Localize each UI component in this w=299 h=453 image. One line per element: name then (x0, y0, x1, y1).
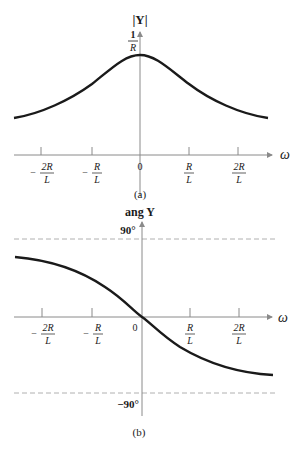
svg-text:−: − (83, 328, 89, 339)
svg-text:R: R (93, 161, 100, 172)
peak-label-num: 1 (131, 29, 136, 40)
svg-text:R: R (186, 322, 193, 333)
svg-text:−: − (82, 167, 88, 178)
svg-text:2R: 2R (41, 161, 52, 172)
svg-text:2R: 2R (42, 322, 53, 333)
tick-labels-a: − 2R L − R L 0 R L 2R L (30, 161, 246, 185)
origin-label-b: 0 (133, 322, 138, 333)
figure: |Y| 1 R ω − 2R L − R L 0 R L 2R L (a) an… (0, 0, 299, 453)
svg-text:L: L (235, 174, 242, 185)
y-label-a: |Y| (132, 12, 147, 27)
label-neg90: −90° (117, 398, 139, 410)
svg-text:L: L (235, 335, 242, 346)
svg-text:−: − (31, 328, 37, 339)
svg-text:L: L (186, 335, 193, 346)
phase-plot: ang Y 90° −90° ω 0 − 2R L − R L (14, 205, 288, 439)
svg-text:0: 0 (138, 161, 143, 172)
magnitude-curve (14, 55, 268, 118)
y-label-b: ang Y (125, 205, 155, 219)
svg-text:L: L (44, 335, 51, 346)
omega-label-a: ω (280, 147, 290, 162)
svg-text:L: L (43, 174, 50, 185)
tick-labels-b: − 2R L − R L R L 2R L (31, 322, 246, 346)
svg-text:L: L (185, 174, 192, 185)
svg-text:−: − (30, 167, 36, 178)
svg-text:L: L (94, 335, 101, 346)
svg-text:R: R (185, 161, 192, 172)
magnitude-plot: |Y| 1 R ω − 2R L − R L 0 R L 2R L (a) (14, 12, 290, 201)
omega-label-b: ω (278, 310, 288, 325)
caption-b: (b) (133, 426, 146, 439)
peak-label-den: R (129, 42, 136, 53)
caption-a: (a) (134, 188, 147, 201)
svg-text:2R: 2R (233, 161, 244, 172)
svg-text:L: L (93, 174, 100, 185)
phase-curve (15, 257, 273, 375)
svg-text:2R: 2R (233, 322, 244, 333)
label-90: 90° (120, 224, 135, 236)
svg-text:R: R (94, 322, 101, 333)
